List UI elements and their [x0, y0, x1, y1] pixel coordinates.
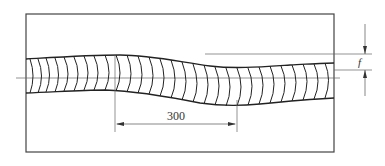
weld-ripples [30, 55, 329, 106]
plate-outline [26, 14, 334, 152]
arrow-left-icon [116, 122, 124, 126]
weld-bead-bottom-edge [26, 90, 334, 105]
pitch-label: 300 [167, 109, 185, 123]
arrow-down-icon [363, 46, 367, 54]
arrow-up-icon [363, 70, 367, 78]
arrow-right-icon [228, 122, 236, 126]
weld-bead-top-edge [26, 55, 334, 68]
deviation-label: f [358, 56, 363, 68]
weld-diagram: 300 f [0, 0, 385, 166]
